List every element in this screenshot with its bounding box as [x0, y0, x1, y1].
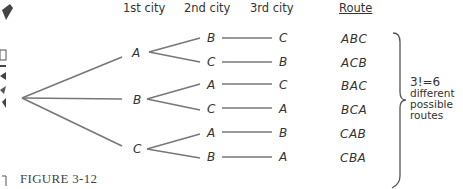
brace-icon: [392, 33, 406, 188]
node-level1-c: C: [133, 143, 141, 155]
route-item: ABC: [341, 32, 367, 46]
node-level3: B: [279, 56, 287, 68]
node-level2: C: [207, 103, 215, 115]
node-level2: C: [207, 56, 215, 68]
node-level3: C: [279, 79, 287, 91]
tree-lines: [0, 0, 463, 189]
header-first-city: 1st city: [123, 1, 165, 15]
node-level1-b: B: [133, 94, 141, 106]
node-level1-a: A: [132, 47, 140, 59]
figure-caption: FIGURE 3-12: [20, 171, 97, 187]
node-level2: B: [207, 32, 215, 44]
header-second-city: 2nd city: [184, 1, 230, 15]
node-level3: C: [279, 32, 287, 44]
node-level3: A: [279, 151, 287, 163]
node-level3: B: [279, 127, 287, 139]
routes-note: 3!=6 different possible routes: [410, 77, 455, 121]
note-line: routes: [410, 110, 455, 121]
route-item: CBA: [340, 151, 366, 165]
node-level2: B: [207, 151, 215, 163]
node-level2: A: [207, 79, 215, 91]
route-item: CAB: [340, 127, 366, 141]
node-level3: A: [279, 103, 287, 115]
route-item: BAC: [341, 79, 367, 93]
route-item: BCA: [341, 103, 367, 117]
header-route: Route: [339, 1, 372, 15]
node-level2: A: [207, 127, 215, 139]
header-third-city: 3rd city: [250, 1, 294, 15]
route-item: ACB: [341, 56, 367, 70]
